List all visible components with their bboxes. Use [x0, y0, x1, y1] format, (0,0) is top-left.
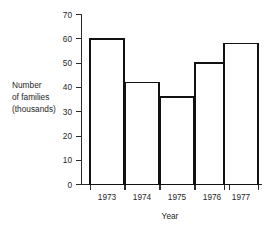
y-tick-label-60: 60 — [63, 34, 73, 44]
chart-canvas: 70 60 50 40 30 20 10 0 — [0, 0, 276, 234]
x-axis-tick-labels: 1973 1974 1975 1976 1977 — [98, 192, 251, 202]
y-axis-title-line-2: of families — [12, 92, 49, 102]
y-axis-tick-labels: 70 60 50 40 30 20 10 0 — [63, 10, 73, 190]
y-tick-label-0: 0 — [67, 180, 72, 190]
bar-1975 — [160, 97, 194, 184]
bar-1973 — [90, 39, 124, 185]
y-tick-label-10: 10 — [63, 155, 73, 165]
x-axis-title: Year — [162, 211, 179, 221]
y-tick-label-30: 30 — [63, 107, 73, 117]
bar-series — [90, 39, 258, 185]
bar-1974 — [125, 83, 159, 185]
x-tick-label-1975: 1975 — [168, 192, 187, 202]
y-tick-label-20: 20 — [63, 131, 73, 141]
bar-1977 — [224, 44, 258, 185]
y-tick-label-40: 40 — [63, 82, 73, 92]
x-tick-label-1976: 1976 — [203, 192, 222, 202]
bar-chart-figure: 70 60 50 40 30 20 10 0 — [0, 0, 276, 234]
y-axis-title: Number of families (thousands) — [12, 80, 56, 114]
y-tick-label-70: 70 — [63, 10, 73, 20]
y-axis-title-line-1: Number — [12, 80, 42, 90]
x-axis-ticks — [91, 185, 259, 191]
x-tick-label-1974: 1974 — [133, 192, 152, 202]
y-tick-label-50: 50 — [63, 58, 73, 68]
x-tick-label-1977: 1977 — [232, 192, 251, 202]
y-axis-title-line-3: (thousands) — [12, 104, 56, 114]
y-axis-ticks — [76, 15, 82, 185]
x-tick-label-1973: 1973 — [98, 192, 117, 202]
